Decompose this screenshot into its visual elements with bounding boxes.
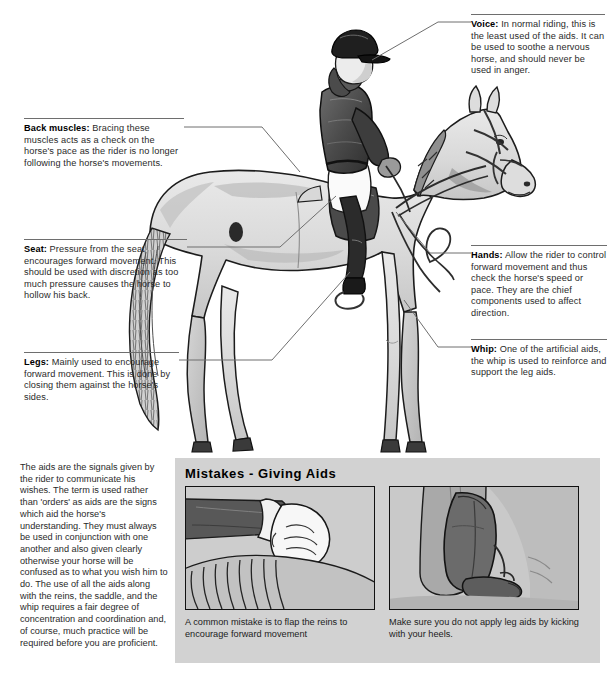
callout-body: Pressure from the seat encourages forwar…	[24, 244, 178, 300]
callout-text: Seat: Pressure from the seat encourages …	[24, 244, 187, 302]
callout-text: Back muscles: Bracing these muscles acts…	[24, 123, 184, 169]
callout-seat: Seat: Pressure from the seat encourages …	[24, 239, 187, 302]
mistakes-photo-item: A common mistake is to flap the reins to…	[185, 486, 375, 640]
intro-paragraph: The aids are the signals given by the ri…	[20, 462, 168, 649]
callout-voice: Voice: In normal riding, this is the lea…	[471, 14, 605, 77]
callout-term: Whip:	[471, 344, 497, 354]
callout-legs: Legs: Mainly used to encourage forward m…	[24, 352, 179, 403]
hand-flapping-reins-illustration	[185, 486, 375, 610]
mistakes-panel: Mistakes - Giving Aids	[175, 458, 600, 663]
mistakes-photo-row: A common mistake is to flap the reins to…	[175, 486, 600, 640]
callout-term: Hands:	[471, 250, 503, 260]
callout-term: Seat:	[24, 244, 47, 254]
callout-text: Whip: One of the artificial aids, the wh…	[471, 344, 607, 379]
callout-text: Legs: Mainly used to encourage forward m…	[24, 357, 179, 403]
callout-rule	[471, 245, 607, 246]
photo-caption: Make sure you do not apply leg aids by k…	[389, 617, 579, 640]
callout-whip: Whip: One of the artificial aids, the wh…	[471, 339, 607, 379]
mistakes-photo-item: Make sure you do not apply leg aids by k…	[389, 486, 579, 640]
callout-rule	[471, 14, 605, 15]
callout-body: Allow the rider to control forward movem…	[471, 250, 606, 318]
callout-text: Voice: In normal riding, this is the lea…	[471, 19, 605, 77]
callout-term: Voice:	[471, 19, 499, 29]
callout-rule	[471, 339, 607, 340]
callout-term: Back muscles:	[24, 123, 90, 133]
callout-term: Legs:	[24, 357, 49, 367]
callout-rule	[24, 239, 187, 240]
callout-rule	[24, 352, 179, 353]
callout-hands: Hands: Allow the rider to control forwar…	[471, 245, 607, 320]
callout-text: Hands: Allow the rider to control forwar…	[471, 250, 607, 320]
aids-diagram-page: Voice: In normal riding, this is the lea…	[0, 0, 611, 674]
boot-kicking-heel-illustration	[389, 486, 579, 610]
mistakes-title: Mistakes - Giving Aids	[175, 458, 600, 486]
photo-caption: A common mistake is to flap the reins to…	[185, 617, 375, 640]
callout-back-muscles: Back muscles: Bracing these muscles acts…	[24, 118, 184, 169]
callout-rule	[24, 118, 184, 119]
